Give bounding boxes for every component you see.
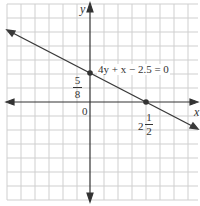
- plotted-line: [7, 30, 198, 129]
- x-intercept-denominator: 2: [145, 126, 153, 137]
- x-intercept-numerator: 1: [145, 112, 153, 123]
- x-intercept-point: [143, 99, 149, 105]
- y-intercept-point: [87, 70, 93, 76]
- x-axis-label: x: [194, 106, 199, 118]
- y-intercept-numerator: 5: [73, 75, 82, 86]
- equation-label: 4y + x − 2.5 = 0: [97, 64, 170, 75]
- x-intercept-label: 1 2: [145, 112, 153, 137]
- graph-canvas: [0, 0, 200, 206]
- line-right-arrow-icon: [190, 123, 198, 129]
- y-axis-label: y: [80, 3, 85, 15]
- line-left-arrow-icon: [7, 30, 15, 36]
- origin-label: 0: [82, 106, 88, 117]
- y-intercept-label: 5 8: [73, 75, 82, 100]
- x-intercept-whole: 2: [138, 121, 144, 132]
- y-intercept-denominator: 8: [73, 89, 82, 100]
- y-axis-down-arrow-icon: [87, 193, 93, 202]
- coordinate-graph: y x 0 4y + x − 2.5 = 0 5 8 2 1 2: [0, 0, 200, 206]
